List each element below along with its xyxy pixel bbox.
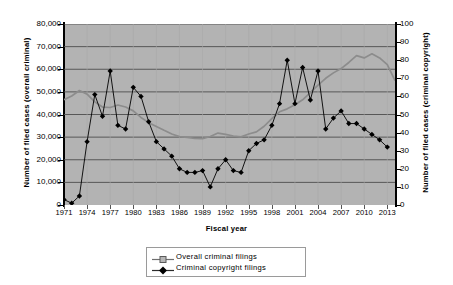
x-axis-tick-mark bbox=[156, 205, 157, 209]
legend-item: Overall criminal filings bbox=[152, 251, 300, 262]
x-axis-tick-label: 1995 bbox=[240, 208, 257, 217]
x-axis-tick-mark bbox=[203, 205, 204, 209]
data-point-marker bbox=[277, 101, 282, 106]
y-axis-right-tick-label: 90 bbox=[400, 37, 409, 47]
y-axis-right-tick-mark bbox=[395, 42, 401, 43]
data-point-marker bbox=[84, 139, 89, 144]
x-axis-tick-label: 2001 bbox=[286, 208, 303, 217]
y-axis-left-title: Number of filed cases (overall criminal) bbox=[22, 25, 31, 201]
x-axis-tick-mark bbox=[318, 205, 319, 209]
y-axis-right-tick-label: 10 bbox=[400, 182, 409, 192]
y-axis-right-tick-label: 100 bbox=[400, 19, 413, 29]
x-axis-tick-label: 1992 bbox=[217, 208, 234, 217]
data-point-marker bbox=[192, 170, 197, 175]
y-axis-right-tick-mark bbox=[395, 24, 401, 25]
x-axis-tick-label: 1986 bbox=[171, 208, 188, 217]
y-axis-right-tick-label: 20 bbox=[400, 164, 409, 174]
data-point-marker bbox=[184, 170, 189, 175]
data-point-marker bbox=[269, 123, 274, 128]
x-axis-tick-mark bbox=[364, 205, 365, 209]
y-axis-right-tick-label: 50 bbox=[400, 110, 409, 120]
x-axis-tick-label: 1974 bbox=[79, 208, 96, 217]
y-axis-right-tick-mark bbox=[395, 187, 401, 188]
x-axis-tick-mark bbox=[64, 205, 65, 209]
data-point-marker bbox=[92, 92, 97, 97]
x-axis-tick-label: 2007 bbox=[333, 208, 350, 217]
x-axis-tick-mark bbox=[133, 205, 134, 209]
data-point-marker bbox=[346, 121, 351, 126]
legend-label-copyright: Criminal copyright filings bbox=[176, 263, 266, 272]
data-point-marker bbox=[115, 123, 120, 128]
data-point-marker bbox=[64, 197, 67, 202]
x-axis-tick-mark bbox=[179, 205, 180, 209]
y-axis-right-tick-label: 80 bbox=[400, 55, 409, 65]
y-axis-right-tick-mark bbox=[395, 115, 401, 116]
x-axis-tick-mark bbox=[249, 205, 250, 209]
y-axis-right-tick-label: 40 bbox=[400, 128, 409, 138]
y-axis-right-title: Number of filed cases (criminal copyrigh… bbox=[421, 25, 430, 201]
chart-container: Number of filed cases (overall criminal)… bbox=[0, 0, 453, 285]
data-point-marker bbox=[177, 166, 182, 171]
legend-label-overall: Overall criminal filings bbox=[176, 252, 257, 261]
x-axis-tick-label: 2010 bbox=[356, 208, 373, 217]
data-point-marker bbox=[308, 97, 313, 102]
chart-plot bbox=[64, 24, 395, 205]
y-axis-right-tick-label: 70 bbox=[400, 73, 409, 83]
x-axis-tick-mark bbox=[226, 205, 227, 209]
data-point-marker bbox=[123, 126, 128, 131]
y-axis-right-tick-mark bbox=[395, 169, 401, 170]
legend-item: Criminal copyright filings bbox=[152, 262, 300, 273]
x-axis-tick-label: 2004 bbox=[310, 208, 327, 217]
data-point-marker bbox=[238, 170, 243, 175]
data-point-marker bbox=[354, 121, 359, 126]
legend-marker-square-icon bbox=[152, 251, 174, 262]
y-axis-right-tick-mark bbox=[395, 60, 401, 61]
y-axis-right-tick-label: 60 bbox=[400, 91, 409, 101]
x-axis-title: Fiscal year bbox=[0, 224, 453, 233]
data-point-marker bbox=[369, 132, 374, 137]
x-axis-tick-mark bbox=[387, 205, 388, 209]
y-axis-right-tick-mark bbox=[395, 205, 401, 206]
x-axis-tick-label: 1971 bbox=[56, 208, 73, 217]
x-axis-tick-mark bbox=[110, 205, 111, 209]
data-point-marker bbox=[285, 58, 290, 63]
data-point-marker bbox=[261, 137, 266, 142]
data-point-marker bbox=[200, 168, 205, 173]
x-axis-tick-mark bbox=[295, 205, 296, 209]
y-axis-right-tick-mark bbox=[395, 96, 401, 97]
data-point-marker bbox=[208, 184, 213, 189]
data-point-marker bbox=[362, 126, 367, 131]
y-axis-right-tick-mark bbox=[395, 151, 401, 152]
x-axis-tick-label: 1998 bbox=[263, 208, 280, 217]
x-axis-tick-label: 1983 bbox=[148, 208, 165, 217]
x-axis-tick-label: 1977 bbox=[102, 208, 119, 217]
y-axis-right-tick-mark bbox=[395, 78, 401, 79]
chart-legend: Overall criminal filings Criminal copyri… bbox=[146, 247, 306, 277]
legend-marker-diamond-icon bbox=[152, 262, 174, 273]
x-axis-tick-label: 2013 bbox=[379, 208, 396, 217]
x-axis-tick-mark bbox=[341, 205, 342, 209]
x-axis-tick-label: 1980 bbox=[125, 208, 142, 217]
x-axis-tick-label: 1989 bbox=[194, 208, 211, 217]
y-axis-right-tick-mark bbox=[395, 133, 401, 134]
x-axis-tick-mark bbox=[272, 205, 273, 209]
x-axis-tick-mark bbox=[87, 205, 88, 209]
y-axis-right-tick-label: 30 bbox=[400, 146, 409, 156]
